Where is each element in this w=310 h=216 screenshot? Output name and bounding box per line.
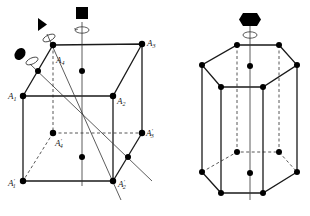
vertex-a2p: [110, 178, 116, 184]
hexagonal-prism-figure: [199, 13, 300, 200]
bottom-face-center: [79, 154, 85, 160]
rotation-arrow-icon: [25, 56, 39, 67]
bottom-center: [247, 170, 253, 176]
hidden-edge-a4p-a1p: [23, 133, 53, 181]
vertex: [234, 149, 240, 155]
vertex: [218, 190, 224, 196]
vertex: [234, 42, 240, 48]
two-fold-axis: [30, 64, 152, 181]
label-a2p: A′2: [117, 179, 126, 190]
vertex: [294, 62, 300, 68]
vertex: [260, 84, 266, 90]
hexagon-symbol-icon: [239, 13, 261, 26]
vertex-a3: [139, 41, 145, 47]
hidden-bottom-edges: [202, 152, 297, 172]
cube-figure: A4 A3 A1 A2 A′4 A′3 A′1 A′2: [7, 7, 156, 200]
ellipse-symbol-icon: [12, 46, 28, 62]
vertex: [218, 84, 224, 90]
symmetry-diagram: A4 A3 A1 A2 A′4 A′3 A′1 A′2: [0, 0, 310, 216]
top-face-center: [79, 68, 85, 74]
vertex-a4: [50, 42, 56, 48]
vertex: [199, 62, 205, 68]
vertex: [276, 42, 282, 48]
vertex-a3p: [139, 130, 145, 136]
top-center: [247, 63, 253, 69]
vertex: [199, 169, 205, 175]
label-a4: A4: [55, 55, 65, 66]
square-symbol-icon: [76, 7, 88, 19]
label-a3: A3: [146, 38, 156, 49]
label-a4p: A′4: [54, 138, 63, 149]
label-a1: A1: [7, 91, 17, 102]
edge-midpoint-bottom: [125, 154, 131, 160]
vertex-a1: [20, 93, 26, 99]
vertex: [294, 169, 300, 175]
label-a2: A2: [116, 96, 126, 107]
vertex-a2: [110, 93, 116, 99]
triangle-symbol-icon: [38, 18, 47, 31]
vertex-a1p: [20, 178, 26, 184]
label-a3p: A′3: [145, 128, 154, 139]
vertex: [260, 190, 266, 196]
edge-midpoint-top: [35, 68, 41, 74]
label-a1p: A′1: [7, 178, 16, 189]
vertex: [276, 149, 282, 155]
vertex-a4p: [50, 130, 56, 136]
